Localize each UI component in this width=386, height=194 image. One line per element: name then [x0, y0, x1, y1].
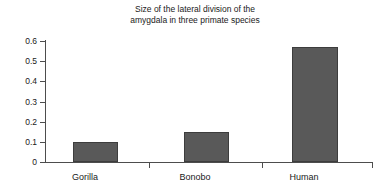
- y-axis-tick-label: 0.5: [0, 57, 37, 66]
- bar-human: [292, 47, 338, 162]
- plot-area: [45, 41, 372, 162]
- x-axis-tick: [262, 163, 263, 168]
- y-axis-tick-label: 0.1: [0, 138, 37, 147]
- x-axis-tick: [372, 163, 373, 168]
- bar-chart-figure: Size of the lateral division of the amyg…: [0, 0, 386, 194]
- x-axis-label-human: Human: [272, 172, 336, 182]
- y-axis-tick-label: 0.6: [0, 37, 37, 46]
- bar-gorilla: [73, 142, 118, 162]
- y-axis-tick-label: 0.3: [0, 98, 37, 107]
- x-axis-label-bonobo: Bonobo: [163, 172, 227, 182]
- x-axis-label-gorilla: Gorilla: [53, 172, 117, 182]
- y-axis-tick-label: 0.4: [0, 77, 37, 86]
- x-axis-line: [45, 162, 373, 163]
- x-axis-tick: [149, 163, 150, 168]
- y-axis-tick-label: 0.2: [0, 118, 37, 127]
- y-axis-tick: [40, 162, 45, 163]
- chart-title: Size of the lateral division of the amyg…: [60, 4, 330, 26]
- bar-bonobo: [184, 132, 229, 162]
- y-axis-tick-label: 0: [0, 158, 37, 167]
